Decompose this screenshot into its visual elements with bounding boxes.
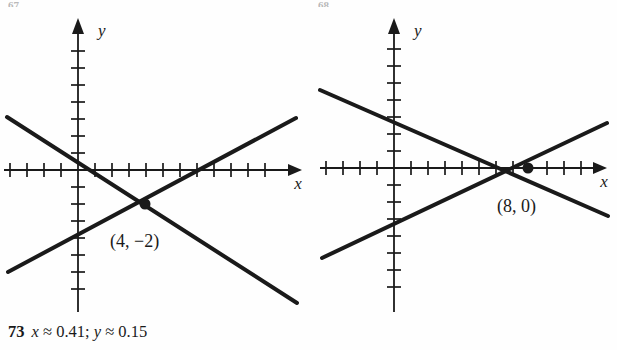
answer-y-symbol: y [94,322,101,341]
graph-right: y x (8, 0) [307,0,617,318]
answer-x-value: ≈ 0.41; [43,322,90,341]
graph-left-point-label: (4, −2) [110,231,159,252]
answer-y-value: ≈ 0.15 [105,322,147,341]
answer-problem-number: 73 [8,322,25,341]
answer-line: 73x ≈ 0.41; y ≈ 0.15 [8,322,147,342]
graph-left-x-axis-label: x [293,174,302,193]
graph-right-descending-line [320,90,608,216]
graph-left-canvas: y x (4, −2) [0,0,310,318]
graph-right-canvas: y x (8, 0) [307,0,617,318]
graph-left-intersection-point [140,199,151,210]
graph-right-x-axis-label: x [599,172,608,191]
graph-right-intersection-point [523,163,534,174]
answer-key-page: 67. 68. [0,0,617,350]
graph-left-descending-line [7,117,297,303]
graph-right-y-axis-label: y [412,21,422,40]
graph-left: y x (4, −2) [0,0,310,318]
answer-x-symbol: x [32,322,39,341]
graph-right-ascending-line [322,123,607,258]
x-axis-left [4,164,302,176]
graph-right-point-label: (8, 0) [497,196,536,217]
graph-left-y-axis-label: y [96,21,106,40]
y-axis-right [388,18,400,312]
